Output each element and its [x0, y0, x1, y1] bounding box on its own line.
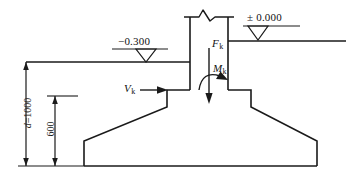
moment-label: Mk	[213, 63, 227, 76]
finished-floor-elevation-label: ± 0.000	[247, 12, 282, 23]
shear-force-arrow	[140, 86, 168, 94]
embedment-depth-equals: =	[22, 118, 33, 124]
shear-force-subscript: k	[131, 87, 135, 96]
moment-symbol: M	[213, 62, 222, 74]
break-line-symbol	[184, 10, 234, 21]
footing-left-profile	[84, 90, 190, 166]
shear-force-symbol: V	[124, 82, 131, 94]
ground-surface-elevation-label: −0.300	[118, 36, 150, 47]
finished-floor-elevation-marker	[243, 26, 300, 40]
ground-surface-elevation-marker	[112, 49, 168, 62]
embedment-depth-value: 1000	[22, 98, 33, 118]
footing-right-profile	[228, 90, 317, 166]
axial-force-label: Fk	[212, 38, 223, 51]
embedment-depth-label: d=1000	[23, 83, 33, 143]
embedment-depth-variable: d	[22, 123, 33, 128]
axial-force-subscript: k	[219, 42, 223, 51]
footing-height-label: 600	[46, 104, 56, 154]
moment-subscript: k	[222, 67, 226, 76]
shear-force-label: Vk	[124, 83, 135, 96]
axial-force-symbol: F	[212, 37, 219, 49]
foundation-diagram-figure: ± 0.000 −0.300 Fk Mk Vk d=1000 600	[0, 0, 352, 181]
